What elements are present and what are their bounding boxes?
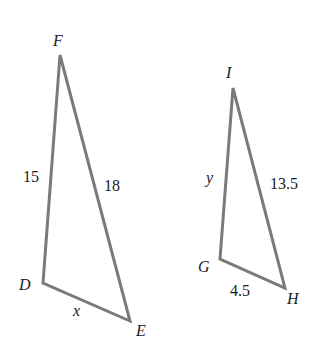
triangle-def: F D E 15 18 x (18, 32, 146, 339)
vertex-label-f: F (52, 32, 63, 49)
side-label-fd: 15 (23, 168, 39, 185)
side-label-ih: 13.5 (270, 175, 298, 192)
vertex-label-d: D (18, 276, 31, 293)
vertex-label-e: E (135, 322, 146, 339)
side-label-de: x (72, 302, 80, 319)
side-label-gh: 4.5 (230, 282, 250, 299)
triangle-ghi: I G H y 13.5 4.5 (198, 64, 300, 307)
vertex-label-h: H (286, 290, 300, 307)
side-label-fe: 18 (104, 177, 120, 194)
vertex-label-g: G (198, 258, 210, 275)
vertex-label-i: I (225, 64, 232, 81)
side-label-ig: y (204, 169, 214, 187)
similar-triangles-diagram: F D E 15 18 x I G H y 13.5 4.5 (0, 0, 319, 355)
